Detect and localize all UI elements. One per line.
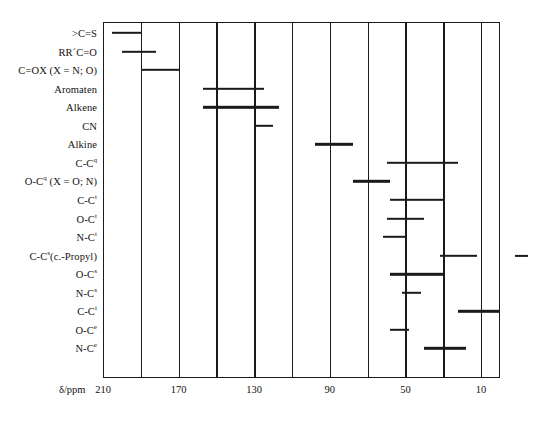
row-label: Alkine bbox=[68, 139, 97, 150]
row-label: N-Ct bbox=[77, 232, 97, 243]
range-bar bbox=[254, 125, 273, 127]
x-axis-title: δ/ppm bbox=[59, 384, 86, 395]
row-label: >C=S bbox=[72, 28, 97, 39]
range-bar bbox=[390, 329, 409, 331]
x-axis-tick bbox=[141, 371, 142, 378]
gridline bbox=[216, 22, 217, 378]
range-bar bbox=[458, 310, 500, 312]
range-bar bbox=[203, 87, 263, 89]
x-axis-tick bbox=[179, 371, 180, 378]
row-label: C-Ct bbox=[77, 194, 97, 205]
row-label: Alkene bbox=[66, 102, 97, 113]
row-label: RR´C=O bbox=[58, 46, 97, 57]
x-axis-tick bbox=[443, 371, 444, 378]
gridline bbox=[179, 22, 180, 378]
row-label: C-Ci bbox=[77, 306, 97, 317]
x-axis-tick-label: 50 bbox=[400, 384, 411, 395]
range-bar bbox=[112, 32, 140, 34]
range-bar bbox=[440, 254, 478, 256]
row-label: Aromaten bbox=[54, 83, 97, 94]
gridline bbox=[443, 22, 444, 378]
x-axis-tick bbox=[405, 371, 406, 378]
gridline bbox=[368, 22, 369, 378]
range-bar bbox=[387, 162, 459, 164]
gridline bbox=[254, 22, 255, 378]
row-label: O-Cq (X = O; N) bbox=[25, 176, 97, 187]
range-bar bbox=[383, 236, 406, 238]
row-label: O-Ce bbox=[75, 324, 97, 335]
range-bar bbox=[141, 69, 179, 71]
x-axis-tick-label: 130 bbox=[246, 384, 262, 395]
range-bar bbox=[424, 347, 466, 349]
row-label: C-Cq bbox=[76, 157, 97, 168]
gridline bbox=[330, 22, 331, 378]
x-axis-tick bbox=[368, 371, 369, 378]
row-label: N-Ce bbox=[75, 343, 97, 354]
x-axis-tick-label: 10 bbox=[476, 384, 487, 395]
x-axis-tick bbox=[216, 371, 217, 378]
x-axis-tick bbox=[330, 371, 331, 378]
row-label: O-Ct bbox=[77, 213, 97, 224]
x-axis-tick bbox=[254, 371, 255, 378]
range-bar bbox=[387, 217, 425, 219]
range-bar bbox=[122, 50, 156, 52]
row-label: C=OX (X = N; O) bbox=[18, 65, 97, 76]
x-axis-tick bbox=[103, 371, 104, 378]
range-bar bbox=[203, 106, 279, 108]
x-axis-tick bbox=[481, 371, 482, 378]
range-bar bbox=[402, 291, 421, 293]
x-axis-tick-label: 170 bbox=[171, 384, 187, 395]
range-bar bbox=[315, 143, 353, 145]
x-axis-tick-label: 210 bbox=[95, 384, 111, 395]
gridline bbox=[292, 22, 293, 378]
x-axis-tick-label: 90 bbox=[325, 384, 336, 395]
nmr-shift-chart: >C=SRR´C=OC=OX (X = N; O)AromatenAlkeneC… bbox=[0, 0, 556, 422]
range-bar bbox=[390, 199, 443, 201]
x-axis-tick bbox=[292, 371, 293, 378]
row-label-column: >C=SRR´C=OC=OX (X = N; O)AromatenAlkeneC… bbox=[0, 0, 103, 422]
gridline bbox=[481, 22, 482, 378]
outside-dash-mark bbox=[515, 255, 528, 257]
row-label: CN bbox=[82, 120, 97, 131]
row-label: O-Cs bbox=[76, 269, 97, 280]
range-bar bbox=[353, 180, 391, 182]
row-label: N-Cs bbox=[76, 287, 97, 298]
range-bar bbox=[390, 273, 443, 275]
row-label: C-Cs(c.-Propyl) bbox=[29, 250, 97, 261]
gridline bbox=[141, 22, 142, 378]
